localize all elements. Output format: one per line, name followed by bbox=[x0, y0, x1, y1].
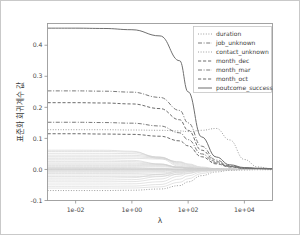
y-axis-title: 표준화 회귀계수 값 bbox=[15, 82, 25, 143]
y-tick-label: 0.4 bbox=[33, 41, 43, 48]
x-tick-label: 1e+00 bbox=[121, 206, 142, 213]
y-tick-label: -0.1 bbox=[30, 197, 42, 204]
legend-label-month-mar: month_mar bbox=[216, 66, 251, 74]
y-tick-label: 0.3 bbox=[33, 72, 43, 79]
y-axis-ticks: -0.10.00.10.20.30.4 bbox=[30, 41, 47, 203]
legend-label-contact-unknown: contact_unknown bbox=[216, 48, 269, 56]
legend-label-job-unknown: job_unknown bbox=[215, 39, 256, 47]
chart-figure: 1e-021e+001e+021e+04 -0.10.00.10.20.30.4… bbox=[0, 0, 300, 235]
x-axis-ticks: 1e-021e+001e+021e+04 bbox=[67, 201, 255, 213]
coefficient-shrinkage-plot: 1e-021e+001e+021e+04 -0.10.00.10.20.30.4… bbox=[1, 1, 300, 235]
x-axis-title: λ bbox=[158, 216, 163, 225]
chart-legend: durationjob_unknowncontact_unknownmonth_… bbox=[194, 27, 273, 93]
series-path-month-mar bbox=[48, 122, 273, 169]
y-tick-label: 0.0 bbox=[33, 166, 43, 173]
background-coefficient-paths bbox=[48, 150, 273, 188]
x-tick-label: 1e+02 bbox=[178, 206, 199, 213]
legend-label-month-dec: month_dec bbox=[216, 57, 249, 65]
x-tick-label: 1e+04 bbox=[234, 206, 255, 213]
y-tick-label: 0.2 bbox=[33, 104, 43, 111]
legend-label-poutcome-success: poutcome_success bbox=[216, 84, 273, 92]
legend-label-duration: duration bbox=[216, 30, 241, 37]
y-tick-label: 0.1 bbox=[33, 135, 43, 142]
legend-label-month-oct: month_oct bbox=[216, 75, 248, 83]
x-tick-label: 1e-02 bbox=[67, 206, 85, 213]
